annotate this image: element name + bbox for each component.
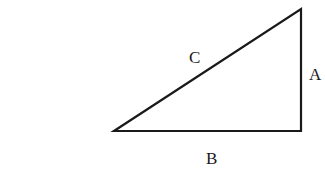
label-hypotenuse-c: C bbox=[189, 48, 200, 67]
label-side-a: A bbox=[309, 65, 322, 84]
triangle-diagram: C A B bbox=[0, 0, 325, 171]
right-triangle bbox=[114, 9, 301, 131]
label-side-b: B bbox=[206, 149, 217, 168]
